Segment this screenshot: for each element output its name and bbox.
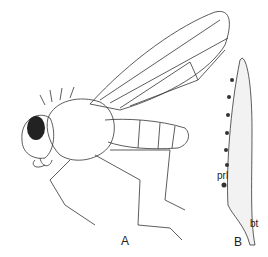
panel-b-label: B [234, 235, 242, 249]
panel-a-label: A [121, 234, 129, 248]
prl-annotation: prl [217, 170, 228, 181]
bt-annotation: bt [250, 218, 258, 229]
fly-illustration [0, 0, 268, 257]
